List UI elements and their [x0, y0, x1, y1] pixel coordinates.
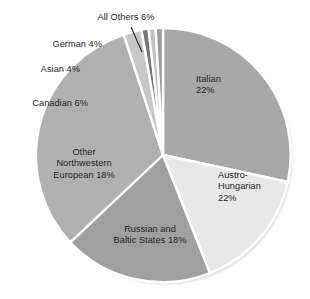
- pie-chart: Italian 22% Austro- Hungarian 22% Russia…: [0, 0, 310, 299]
- slice-label-italian: Italian 22%: [196, 74, 256, 97]
- slice-label-german: German 4%: [22, 39, 102, 50]
- slice-label-russian-and-baltic-states: Russian and Baltic States 18%: [86, 224, 214, 247]
- slice-label-asian: Asian 4%: [10, 64, 80, 75]
- slice-label-all-others: All Others 6%: [76, 12, 176, 23]
- slice-label-canadian: Canadian 6%: [4, 98, 88, 109]
- slice-label-other-northwestern-european: Other Northwestern European 18%: [28, 147, 140, 181]
- slice-label-austro-hungarian: Austro- Hungarian 22%: [218, 170, 290, 204]
